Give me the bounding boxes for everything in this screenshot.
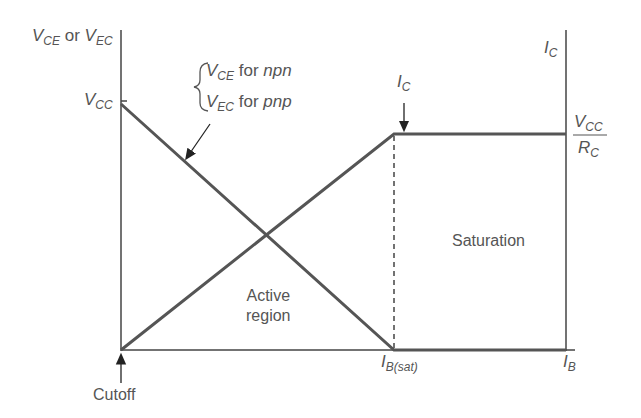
curve-note: VCE for npn VEC for pnp xyxy=(206,58,292,120)
vce-curve xyxy=(121,104,566,350)
right-axis-label: IC xyxy=(544,38,557,60)
saturation-label: Saturation xyxy=(452,232,525,250)
ic-arrow-label: IC xyxy=(397,72,410,94)
ic-max-denominator: RC xyxy=(578,138,599,160)
ib-sat-label: IB(sat) xyxy=(381,352,418,374)
ic-max-numerator: VCC xyxy=(574,112,603,134)
load-line-diagram xyxy=(0,0,641,418)
active-region-label: Active region xyxy=(246,286,290,326)
cutoff-label: Cutoff xyxy=(93,386,135,404)
vcc-label: VCC xyxy=(84,90,113,112)
left-axis-label: VCE or VEC xyxy=(32,26,113,48)
x-axis-label: IB xyxy=(563,352,576,374)
note-arrow-icon xyxy=(188,124,210,156)
